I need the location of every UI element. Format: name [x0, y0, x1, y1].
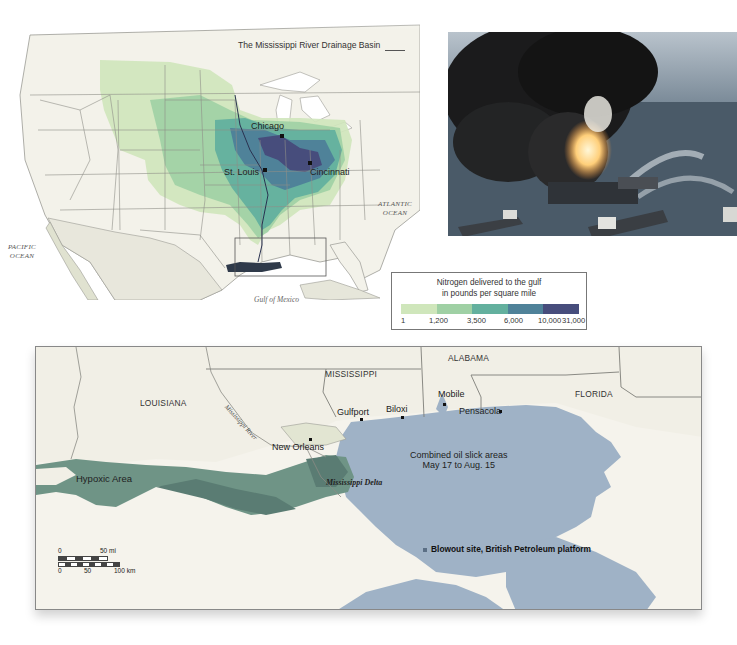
pacific-line2: OCEAN	[8, 252, 36, 261]
city-marker-new-orleans	[309, 438, 312, 441]
legend-tick: 1	[401, 316, 405, 325]
legend-tick: 6,000	[504, 316, 523, 325]
mississippi-drainage-basin-map: The Mississippi River Drainage Basin Chi…	[0, 0, 420, 300]
nitrogen-legend: Nitrogen delivered to the gulf in pounds…	[391, 272, 587, 330]
legend-tick: 31,000	[562, 316, 585, 325]
pacific-line1: PACIFIC	[8, 243, 36, 252]
blowout-site-marker	[423, 548, 427, 552]
legend-tick: 1,200	[429, 316, 448, 325]
city-label-st-louis: St. Louis	[224, 167, 259, 177]
city-label-mobile: Mobile	[438, 389, 465, 399]
atlantic-line2: OCEAN	[378, 209, 412, 218]
scale-mi-bar	[58, 556, 108, 561]
city-label-cincinnati: Cincinnati	[310, 167, 350, 177]
gulf-oil-spill-map: LOUISIANA MISSISSIPPI ALABAMA FLORIDA Mo…	[35, 346, 702, 610]
legend-swatch-1	[401, 304, 437, 314]
city-marker-gulfport	[360, 418, 363, 421]
city-marker-biloxi	[401, 416, 404, 419]
legend-tick: 3,500	[467, 316, 486, 325]
oil-platform-fire-photo	[448, 32, 737, 236]
state-label-mississippi: MISSISSIPPI	[325, 369, 377, 379]
city-label-biloxi: Biloxi	[386, 404, 408, 414]
city-label-new-orleans: New Orleans	[272, 442, 324, 452]
oil-slick-label: Combined oil slick areas May 17 to Aug. …	[410, 450, 508, 470]
scale-km-label: 100 km	[114, 567, 135, 574]
scale-bar: 0 50 mi 0 50 100 km	[58, 547, 158, 577]
scale-km-mid: 50	[84, 567, 91, 574]
legend-swatch-2	[437, 304, 473, 314]
scale-km-zero: 0	[58, 567, 62, 574]
city-marker-mobile	[443, 403, 446, 406]
map-title-leader-line	[385, 50, 405, 51]
city-label-chicago: Chicago	[251, 121, 284, 131]
gulf-of-mexico-label: Gulf of Mexico	[254, 295, 299, 304]
city-marker-pensacola	[499, 410, 502, 413]
photo-graphic	[448, 32, 737, 236]
legend-swatch-5	[543, 304, 579, 314]
city-marker-cincinnati	[308, 161, 312, 165]
atlantic-ocean-label: ATLANTIC OCEAN	[378, 200, 412, 218]
city-label-gulfport: Gulfport	[337, 407, 369, 417]
map-title: The Mississippi River Drainage Basin	[238, 40, 380, 50]
legend-swatch-4	[508, 304, 544, 314]
city-marker-st-louis	[263, 168, 267, 172]
blowout-site-label: Blowout site, British Petroleum platform	[431, 544, 591, 554]
legend-swatch-3	[472, 304, 508, 314]
oil-slick-line1: Combined oil slick areas	[410, 450, 508, 460]
hypoxic-area-label: Hypoxic Area	[76, 473, 132, 484]
pacific-ocean-label: PACIFIC OCEAN	[8, 243, 36, 261]
legend-tick: 10,000	[538, 316, 561, 325]
legend-ticks: 1 1,200 3,500 6,000 10,000 31,000	[398, 316, 586, 326]
legend-title-line2: in pounds per square mile	[392, 289, 586, 298]
state-label-florida: FLORIDA	[575, 389, 613, 399]
scale-mi-zero: 0	[58, 547, 62, 554]
atlantic-line1: ATLANTIC	[378, 200, 412, 209]
state-label-louisiana: LOUISIANA	[140, 398, 186, 408]
scale-mi-label: 50 mi	[100, 547, 116, 554]
city-label-pensacola: Pensacola	[459, 406, 501, 416]
city-marker-chicago	[280, 134, 284, 138]
state-label-alabama: ALABAMA	[448, 353, 489, 363]
legend-color-scale	[401, 304, 579, 314]
legend-title-line1: Nitrogen delivered to the gulf	[392, 278, 586, 287]
oil-slick-line2: May 17 to Aug. 15	[410, 460, 508, 470]
mississippi-delta-label: Mississippi Delta	[326, 478, 382, 487]
